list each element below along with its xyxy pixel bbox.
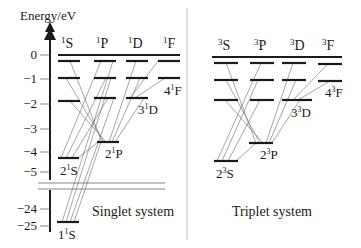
- tick-label: −4: [23, 144, 37, 159]
- axis-title: Energy/eV: [20, 8, 77, 23]
- tick-label: −2: [23, 96, 37, 111]
- axis-ticks: [40, 55, 50, 226]
- tick-label: 0: [31, 47, 38, 62]
- energy-axis: Energy/eV 0 −1 −2 −3 −4 −5 −24 −25: [17, 8, 165, 233]
- helium-energy-level-diagram: Energy/eV 0 −1 −2 −3 −4 −5 −24 −25: [0, 0, 361, 248]
- axis-tick-labels: 0 −1 −2 −3 −4 −5 −24 −25: [17, 47, 38, 233]
- singlet-levels: [57, 61, 180, 222]
- state-label-2-3S: 23S: [216, 166, 234, 181]
- tick-label: −25: [17, 218, 37, 233]
- singlet-caption: Singlet system: [92, 204, 174, 219]
- triplet-system: 3S 3P 3D 3F: [212, 37, 343, 219]
- state-label-3-1D: 31D: [138, 102, 158, 117]
- tick-label: −3: [23, 121, 37, 136]
- tick-label: −1: [23, 71, 37, 86]
- triplet-levels: [214, 63, 342, 161]
- column-header-1S: 1S: [61, 35, 73, 51]
- state-label-3-3D: 33D: [291, 105, 311, 120]
- column-header-1P: 1P: [96, 35, 109, 51]
- state-label-4-1F: 41F: [164, 83, 182, 98]
- column-header-3D: 3D: [290, 37, 305, 53]
- tick-label: −5: [23, 164, 37, 179]
- column-header-3S: 3S: [218, 37, 230, 53]
- axis-arrow-icon: [45, 22, 55, 32]
- column-header-1D: 1D: [128, 35, 143, 51]
- state-label-1-1S: 11S: [58, 227, 76, 242]
- state-label-2-3P: 23P: [260, 147, 278, 162]
- column-header-1F: 1F: [163, 35, 176, 51]
- singlet-system: 1S 1P 1D 1F: [57, 35, 182, 242]
- state-label-2-1S: 21S: [60, 163, 78, 178]
- state-label-4-3F: 43F: [325, 85, 343, 100]
- state-label-2-1P: 21P: [105, 146, 123, 161]
- column-header-3F: 3F: [322, 37, 335, 53]
- tick-label: −24: [17, 201, 38, 216]
- triplet-caption: Triplet system: [232, 204, 312, 219]
- column-header-3P: 3P: [254, 37, 267, 53]
